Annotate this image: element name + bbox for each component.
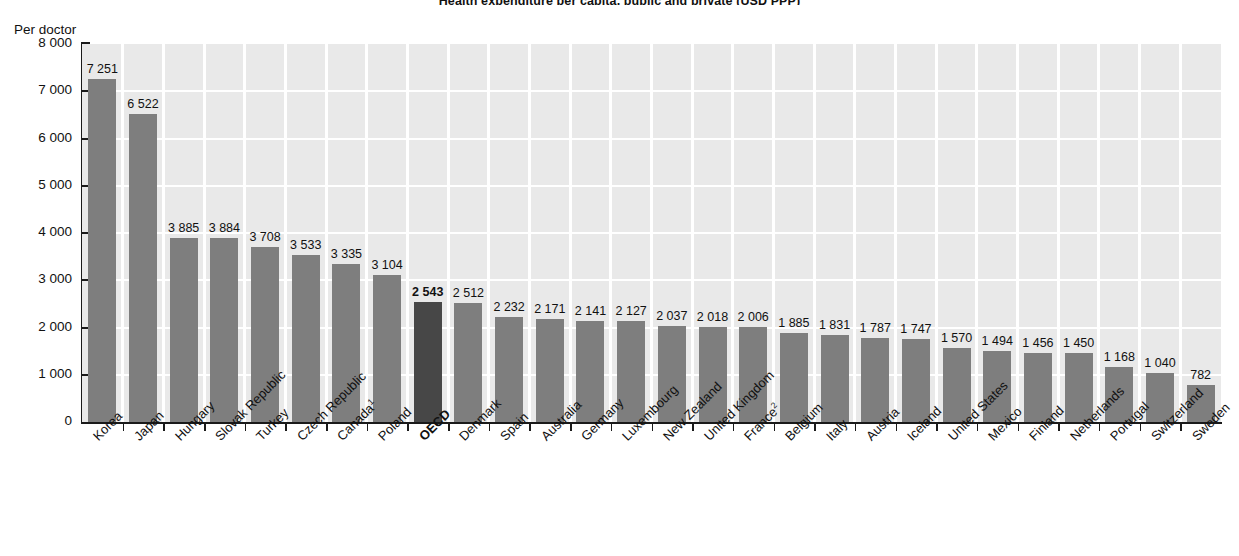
y-axis-tick-label: 6 000	[38, 130, 72, 145]
x-axis-tick-mark	[285, 424, 287, 431]
x-axis-tick-mark	[245, 424, 247, 431]
gridline-vertical	[569, 44, 572, 422]
bar-value-label: 1 450	[1050, 336, 1107, 350]
gridline-vertical	[772, 44, 775, 422]
gridline-vertical	[528, 44, 531, 422]
gridline-vertical	[853, 44, 856, 422]
bar-value-label: 2 512	[440, 286, 497, 300]
x-axis-tick-mark	[163, 424, 165, 431]
x-axis-tick-mark	[652, 424, 654, 431]
x-axis-tick-mark	[367, 424, 369, 431]
gridline-vertical	[731, 44, 734, 422]
bar	[414, 302, 442, 422]
x-axis-tick-mark	[570, 424, 572, 431]
x-axis-tick-mark	[489, 424, 491, 431]
bar	[210, 238, 238, 422]
x-axis-tick-mark	[774, 424, 776, 431]
gridline-vertical	[365, 44, 368, 422]
gridline-vertical	[813, 44, 816, 422]
chart-figure: Health expenditure per capita, public an…	[0, 0, 1239, 556]
gridline-vertical	[406, 44, 409, 422]
y-axis-tick-label: 2 000	[38, 319, 72, 334]
y-axis-tick-label: 5 000	[38, 177, 72, 192]
gridline-vertical	[487, 44, 490, 422]
bar	[454, 303, 482, 422]
bar	[373, 275, 401, 422]
bar	[292, 255, 320, 422]
bar	[536, 319, 564, 422]
x-axis-tick-mark	[204, 424, 206, 431]
bar	[780, 333, 808, 422]
bar	[88, 79, 116, 422]
y-axis-tick-label: 7 000	[38, 82, 72, 97]
y-axis-tick-label: 4 000	[38, 224, 72, 239]
gridline-vertical	[975, 44, 978, 422]
x-axis-tick-mark	[1140, 424, 1142, 431]
gridline-vertical	[609, 44, 612, 422]
x-axis-tick-mark	[123, 424, 125, 431]
bar-value-label: 7 251	[74, 62, 131, 76]
x-axis-tick-mark	[733, 424, 735, 431]
x-axis-tick-mark	[814, 424, 816, 431]
x-axis-tick-mark	[1099, 424, 1101, 431]
x-axis-tick-mark	[1180, 424, 1182, 431]
x-axis-tick-mark	[529, 424, 531, 431]
gridline-vertical	[894, 44, 897, 422]
y-axis-tick-label: 8 000	[38, 35, 72, 50]
x-axis-tick-mark	[326, 424, 328, 431]
x-axis-tick-mark	[407, 424, 409, 431]
chart-title-text: Health expenditure per capita, public an…	[439, 0, 801, 5]
gridline-vertical	[325, 44, 328, 422]
x-axis-tick-mark	[1018, 424, 1020, 431]
gridline-vertical	[650, 44, 653, 422]
gridline-vertical	[935, 44, 938, 422]
gridline-vertical	[447, 44, 450, 422]
bar-value-label: 6 522	[115, 97, 172, 111]
x-axis-tick-mark	[448, 424, 450, 431]
x-axis-tick-mark	[977, 424, 979, 431]
bar	[129, 114, 157, 422]
gridline-vertical	[1057, 44, 1060, 422]
gridline-vertical	[691, 44, 694, 422]
y-axis-tick-label: 0	[64, 413, 72, 428]
gridline-vertical	[1016, 44, 1019, 422]
bar-value-label: 3 104	[359, 258, 416, 272]
y-axis-tick-label: 1 000	[38, 366, 72, 381]
x-axis-tick-mark	[1058, 424, 1060, 431]
gridline-vertical	[1097, 44, 1100, 422]
bar	[170, 238, 198, 422]
bar-value-label: 782	[1172, 368, 1229, 382]
x-axis-tick-mark	[936, 424, 938, 431]
chart-title-clipped: Health expenditure per capita, public an…	[0, 0, 1239, 5]
x-axis-tick-mark	[692, 424, 694, 431]
x-axis-tick-mark	[896, 424, 898, 431]
x-axis-tick-mark	[855, 424, 857, 431]
x-axis-tick-mark	[611, 424, 613, 431]
y-axis-tick-label: 3 000	[38, 271, 72, 286]
